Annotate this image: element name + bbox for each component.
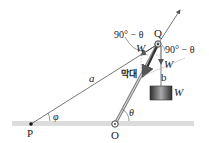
phi-arc xyxy=(48,113,50,121)
label-q: Q xyxy=(154,28,162,39)
label-b: b xyxy=(161,72,167,83)
label-p: P xyxy=(27,128,33,139)
label-w-down: W xyxy=(164,59,173,70)
ground xyxy=(12,121,194,126)
diagram-canvas xyxy=(0,0,209,143)
physics-diagram: P O Q a b φ θ 90° − θ 90° − θ W W W 막대 xyxy=(0,0,209,143)
weight-block xyxy=(150,86,172,100)
point-p xyxy=(29,122,33,126)
label-w-block: W xyxy=(174,87,183,98)
label-o: O xyxy=(111,130,119,141)
label-a: a xyxy=(89,73,95,84)
label-rod: 막대 xyxy=(121,70,137,79)
label-angle-left: 90° − θ xyxy=(114,30,143,40)
label-w-string: W xyxy=(136,43,145,54)
label-phi: φ xyxy=(53,112,59,122)
label-theta: θ xyxy=(129,108,134,118)
string-a xyxy=(31,44,158,124)
label-angle-right: 90° − θ xyxy=(165,45,194,55)
